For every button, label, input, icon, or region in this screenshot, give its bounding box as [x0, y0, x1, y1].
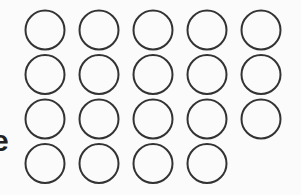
- circle-r2-c2: [80, 55, 119, 94]
- circle-r1-c2: [80, 11, 119, 50]
- circle-r4-c2: [80, 144, 119, 183]
- circle-r4-c1: [26, 144, 65, 183]
- circle-r1-c3: [134, 11, 173, 50]
- circle-r4-c3: [134, 144, 173, 183]
- circle-r2-c3: [134, 55, 173, 94]
- circle-r2-c4: [188, 55, 227, 94]
- circle-r2-c1: [26, 55, 65, 94]
- circle-r3-c4: [188, 100, 227, 139]
- circle-r3-c1: [26, 100, 65, 139]
- circle-r1-c5: [242, 11, 281, 50]
- circle-r3-c2: [80, 100, 119, 139]
- circle-r3-c3: [134, 100, 173, 139]
- circle-r1-c1: [26, 11, 65, 50]
- circle-r1-c4: [188, 11, 227, 50]
- circle-r3-c5: [242, 100, 281, 139]
- circle-grid: [0, 0, 301, 195]
- circle-r4-c4: [188, 144, 227, 183]
- circle-r2-c5: [242, 55, 281, 94]
